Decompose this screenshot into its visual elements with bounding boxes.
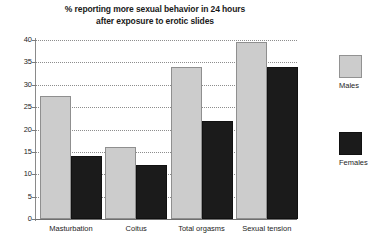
x-axis-tick-labels: MasturbationCoitusTotal orgasmsSexual te… [36,224,297,238]
y-axis-tick [32,152,36,153]
x-axis-tick-label: Total orgasms [169,224,234,233]
y-axis-tick-label: 15 [8,148,32,156]
y-axis-tick-label: 20 [8,126,32,134]
x-axis-tick-label: Coitus [104,224,169,233]
bar-males-masturbation [40,96,71,219]
legend-entry-females: Females [339,132,368,167]
bar-females-masturbation [71,156,102,219]
y-axis-tick [32,85,36,86]
bar-males-total-orgasms [171,67,202,219]
y-axis-tick-label: 5 [8,193,32,201]
chart-title: % reporting more sexual behavior in 24 h… [0,4,310,27]
chart-title-line-1: % reporting more sexual behavior in 24 h… [0,4,310,16]
y-axis-tick [32,130,36,131]
y-axis-tick-label: 35 [8,58,32,66]
y-axis-tick-label: 10 [8,170,32,178]
x-axis-tick-label: Sexual tension [234,224,299,233]
y-axis-tick-label: 25 [8,103,32,111]
chart-title-line-2: after exposure to erotic slides [0,16,310,28]
bar-males-coitus [105,147,136,219]
legend-swatch-males [339,55,362,78]
bar-females-coitus [136,165,167,219]
y-axis-tick-labels: 0510152025303540 [4,40,32,219]
plot-area [36,40,297,219]
bar-females-sexual-tension [267,67,298,219]
legend-label-females: Females [339,158,368,167]
y-axis-tick [32,40,36,41]
y-axis-tick-label: 40 [8,36,32,44]
bar-males-sexual-tension [236,42,267,219]
gridline [36,40,297,41]
y-axis-tick-label: 30 [8,81,32,89]
bar-females-total-orgasms [202,121,233,219]
legend-swatch-females [339,132,362,155]
y-axis-tick [32,62,36,63]
legend-label-males: Males [339,81,362,90]
y-axis-tick [32,107,36,108]
y-axis-tick [32,219,36,220]
x-axis-line [35,219,297,220]
x-axis-tick-label: Masturbation [38,224,103,233]
y-axis-tick [32,174,36,175]
legend-entry-males: Males [339,55,362,90]
y-axis-tick [32,197,36,198]
y-axis-tick-label: 0 [8,215,32,223]
